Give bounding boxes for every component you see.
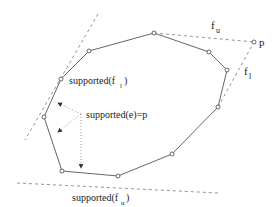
convex-polygon bbox=[44, 33, 227, 176]
label-supported-e: supported(e)=p bbox=[86, 109, 147, 121]
label-f-l-right-sub: l bbox=[249, 72, 252, 81]
label-f-u-top-sub: u bbox=[216, 26, 220, 35]
diagram-canvas: p f u f l supported(f l ) supported(e)=p… bbox=[0, 0, 279, 207]
label-supported-f-l-sub: l bbox=[120, 82, 122, 90]
label-supported-f-u-close: ) bbox=[126, 192, 129, 204]
label-supported-f-l-close: ) bbox=[124, 75, 127, 87]
label-supported-f-u-sub: u bbox=[121, 199, 125, 207]
label-f-u-top: f bbox=[211, 19, 215, 31]
label-supported-f-l: supported(f bbox=[69, 75, 116, 87]
vertex-markers bbox=[42, 31, 256, 178]
tangent-f-u bbox=[154, 33, 254, 42]
arrow-up bbox=[58, 103, 81, 114]
label-f-l-right: f bbox=[244, 65, 248, 77]
label-p: p bbox=[259, 36, 265, 48]
arrow-left bbox=[58, 114, 81, 132]
label-supported-f-u: supported(f bbox=[72, 192, 119, 204]
